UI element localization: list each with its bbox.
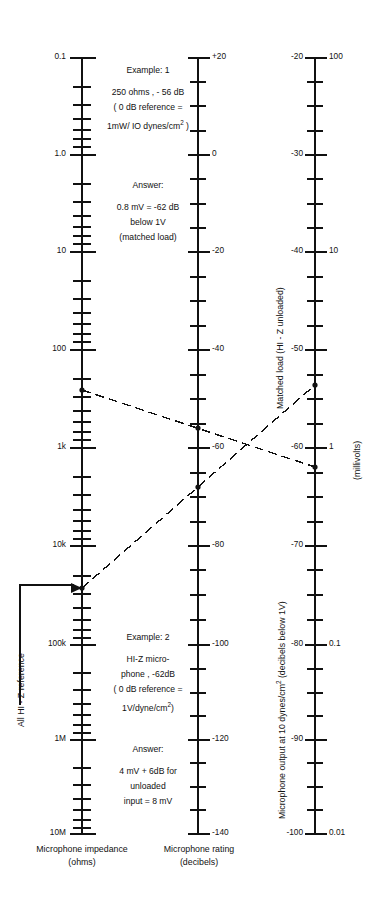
rating-tick-label: -60: [212, 441, 224, 451]
impedance-axis-title-line2: (ohms): [12, 856, 152, 869]
rating-tick-label: -40: [212, 343, 224, 353]
output-axis-label-sup: 2: [275, 681, 282, 685]
rating-axis-title-line2: (decibels): [136, 856, 262, 869]
example1-answer-line2: below 1V: [88, 215, 208, 230]
rating-tick-label: +20: [212, 51, 226, 61]
output-axis-label-pre: Microphone output at 10 dynes/cm: [277, 684, 287, 819]
output-db-tick-label: -30: [262, 148, 303, 158]
example1-answer-line1: 0.8 mV = -62 dB: [88, 200, 208, 215]
example2-line3: ( 0 dB reference =: [88, 682, 208, 697]
impedance-tick-label: 10M: [28, 827, 66, 837]
example1-heading: Example: 1: [88, 63, 208, 78]
example1-line3: 1mW/ IO dynes/cm2 ): [88, 115, 208, 134]
example1-answer-heading: Answer:: [88, 178, 208, 193]
millivolts-axis-label-text: (millivolts): [352, 441, 362, 480]
millivolts-axis-label: (millivolts): [352, 441, 362, 480]
impedance-tick-label: 1M: [28, 733, 66, 743]
impedance-axis-title-line1: Microphone impedance: [12, 843, 152, 856]
example1-annotation: Example: 1 250 ohms , - 56 dB ( 0 dB ref…: [88, 63, 208, 134]
axis-impedance-ticks: [70, 58, 96, 834]
millivolt-tick-label: 1: [329, 441, 334, 451]
output-db-tick-label: -20: [262, 51, 303, 61]
axis-output-ticks: [305, 58, 327, 834]
millivolt-tick-label: 100: [329, 51, 343, 61]
example2-answer: Answer: 4 mV + 6dB for unloaded input = …: [88, 742, 208, 809]
millivolt-tick-label: 10: [329, 245, 338, 255]
example2-answer-line2: unloaded: [88, 779, 208, 794]
output-db-tick-label: -60: [262, 441, 303, 451]
example2-answer-line1: 4 mV + 6dB for: [88, 764, 208, 779]
axis-rating-ticks: [188, 58, 210, 834]
example1-line2: ( 0 dB reference =: [88, 100, 208, 115]
rating-tick-label: -80: [212, 539, 224, 549]
output-db-tick-label: -40: [262, 245, 303, 255]
impedance-tick-label: 10: [28, 245, 66, 255]
rating-tick-label: 0: [212, 148, 217, 158]
millivolt-tick-label: 0.01: [329, 827, 345, 837]
matched-load-label-text: Matched load (HI - Z unloaded): [275, 287, 285, 409]
example2-answer-line3: input = 8 mV: [88, 794, 208, 809]
matched-load-label: Matched load (HI - Z unloaded): [275, 287, 285, 409]
example2-heading: Example: 2: [88, 630, 208, 645]
impedance-tick-label: 1.0: [28, 148, 66, 158]
impedance-tick-label: 10k: [28, 539, 66, 549]
example2-line4-post: ): [171, 703, 174, 713]
rating-axis-title: Microphone rating (decibels): [136, 843, 262, 869]
rating-tick-label: -140: [212, 827, 229, 837]
example1-answer: Answer: 0.8 mV = -62 dB below 1V (matche…: [88, 178, 208, 245]
impedance-tick-label: 0.1: [28, 51, 66, 61]
millivolt-tick-label: 0.1: [329, 638, 341, 648]
rating-axis-title-line1: Microphone rating: [136, 843, 262, 856]
example2-answer-heading: Answer:: [88, 742, 208, 757]
example1-line1: 250 ohms , - 56 dB: [88, 85, 208, 100]
impedance-tick-label: 100: [28, 343, 66, 353]
example1-line3-pre: 1mW/ IO dynes/cm: [107, 121, 180, 131]
rating-tick-label: -100: [212, 638, 229, 648]
hiz-reference-label-text: All HI - Z reference: [16, 653, 26, 727]
output-db-tick-label: -70: [262, 539, 303, 549]
example2-line1: HI-Z micro-: [88, 652, 208, 667]
nomogram-figure: 0.1 1.0 10 100 1k 10k 100k 1M 10M +20 0 …: [0, 0, 381, 914]
output-db-tick-label: -100: [262, 827, 303, 837]
impedance-tick-label: 100k: [28, 638, 66, 648]
output-axis-label-post: (decibels below 1V): [277, 601, 287, 680]
example1-line3-post: ): [184, 121, 189, 131]
example2-line4-pre: 1V/dyne/cm: [122, 703, 167, 713]
impedance-tick-label: 1k: [28, 441, 66, 451]
example2-line4: 1V/dyne/cm2): [88, 697, 208, 716]
example2-line2: phone , -62dB: [88, 667, 208, 682]
hiz-reference-label: All HI - Z reference: [16, 653, 26, 727]
example2-annotation: Example: 2 HI-Z micro- phone , -62dB ( 0…: [88, 630, 208, 716]
impedance-axis-title: Microphone impedance (ohms): [12, 843, 152, 869]
rating-tick-label: -120: [212, 733, 229, 743]
output-axis-label: Microphone output at 10 dynes/cm2 (decib…: [275, 601, 287, 819]
rating-tick-label: -20: [212, 245, 224, 255]
example1-answer-line3: (matched load): [88, 230, 208, 245]
